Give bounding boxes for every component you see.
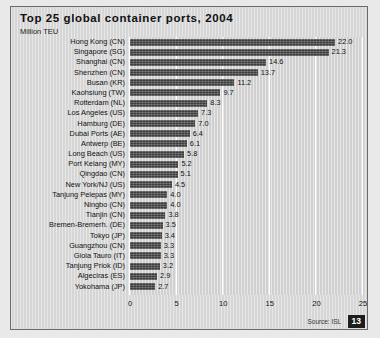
bar-category-label: Los Angeles (US) (10, 108, 125, 117)
bar (130, 39, 335, 46)
bar-category-label: Yokohama (JP) (10, 282, 125, 291)
bar (130, 242, 161, 249)
bar (130, 59, 266, 66)
bar-row: New York/NJ (US)4.5 (11, 180, 368, 190)
bar (130, 171, 178, 178)
bar-category-label: Singapore (SG) (10, 47, 125, 56)
bar-category-label: Long Beach (US) (10, 149, 125, 158)
bar-row: Gioia Tauro (IT)3.3 (11, 251, 368, 261)
bar-row: Algeciras (ES)2.9 (11, 271, 368, 281)
chart-figure: Top 25 global container ports, 2004 Mill… (10, 6, 368, 330)
bar-category-label: Dubai Ports (AE) (10, 129, 125, 138)
bar-value-label: 22.0 (338, 37, 352, 46)
bar-category-label: Tokyo (JP) (10, 231, 125, 240)
bar-row: Kaohsiung (TW)9.7 (11, 88, 368, 98)
bar-row: Shenzhen (CN)13.7 (11, 68, 368, 78)
bar-category-label: Qingdao (CN) (10, 169, 125, 178)
bar-category-label: Rotterdam (NL) (10, 98, 125, 107)
bar-row: Guangzhou (CN)3.3 (11, 241, 368, 251)
bar-row: Tianjin (CN)3.8 (11, 210, 368, 220)
bar-row: Qingdao (CN)5.1 (11, 169, 368, 179)
bar-category-label: Ningbo (CN) (10, 200, 125, 209)
bar-value-label: 7.0 (198, 119, 208, 128)
bar-row: Tanjung Pelepas (MY)4.0 (11, 190, 368, 200)
bar (130, 263, 160, 270)
bar-category-label: New York/NJ (US) (10, 180, 125, 189)
bar (130, 100, 207, 107)
bar-value-label: 13.7 (261, 68, 275, 77)
bar (130, 202, 167, 209)
bar-value-label: 4.0 (170, 190, 180, 199)
bar-row: Dubai Ports (AE)6.4 (11, 129, 368, 139)
bar-category-label: Hamburg (DE) (10, 119, 125, 128)
bar-value-label: 21.3 (332, 47, 346, 56)
bar-value-label: 11.2 (237, 78, 251, 87)
bar-value-label: 3.8 (168, 210, 178, 219)
bar-row: Yokohama (JP)2.7 (11, 282, 368, 292)
bar (130, 89, 220, 96)
bar-row: Long Beach (US)5.8 (11, 149, 368, 159)
bar (130, 212, 165, 219)
bar-row: Tokyo (JP)3.4 (11, 231, 368, 241)
bar (130, 69, 258, 76)
bar-value-label: 7.3 (201, 108, 211, 117)
bar-row: Los Angeles (US)7.3 (11, 108, 368, 118)
bar-category-label: Hong Kong (CN) (10, 37, 125, 46)
x-tick-label: 5 (174, 299, 178, 308)
bar (130, 273, 157, 280)
bar-category-label: Antwerp (BE) (10, 139, 125, 148)
source-note: Source: ISL (308, 318, 341, 325)
plot-wrapper: Hong Kong (CN)22.0Singapore (SG)21.3Shan… (11, 37, 368, 299)
page-number-badge: 13 (348, 315, 365, 328)
bar-row: Hamburg (DE)7.0 (11, 119, 368, 129)
bar-value-label: 5.8 (187, 149, 197, 158)
bar (130, 161, 178, 168)
bar (130, 79, 234, 86)
bar-value-label: 6.1 (190, 139, 200, 148)
bar (130, 110, 198, 117)
bar-row: Tanjung Priok (ID)3.2 (11, 261, 368, 271)
bar-rows: Hong Kong (CN)22.0Singapore (SG)21.3Shan… (11, 37, 368, 292)
x-tick-label: 15 (266, 299, 274, 308)
bar-value-label: 5.1 (181, 169, 191, 178)
bar-row: Hong Kong (CN)22.0 (11, 37, 368, 47)
x-tick-label: 10 (219, 299, 227, 308)
chart-subtitle: Million TEU (20, 27, 58, 36)
bar-category-label: Port Kelang (MY) (10, 159, 125, 168)
bar-value-label: 6.4 (193, 129, 203, 138)
bar-value-label: 5.2 (181, 159, 191, 168)
bar-row: Singapore (SG)21.3 (11, 47, 368, 57)
bar-row: Busan (KR)11.2 (11, 78, 368, 88)
bar-value-label: 3.3 (164, 241, 174, 250)
bar-row: Bremen-Bremerh. (DE)3.5 (11, 220, 368, 230)
bar-category-label: Tanjung Pelepas (MY) (10, 190, 125, 199)
bar-value-label: 4.0 (170, 200, 180, 209)
bar-value-label: 2.7 (158, 282, 168, 291)
bar-row: Shanghai (CN)14.6 (11, 57, 368, 67)
bar (130, 283, 155, 290)
bar-value-label: 9.7 (223, 88, 233, 97)
bar-category-label: Bremen-Bremerh. (DE) (10, 220, 125, 229)
bar-category-label: Gioia Tauro (IT) (10, 251, 125, 260)
bar (130, 252, 161, 259)
bar-value-label: 14.6 (269, 57, 283, 66)
bar (130, 49, 329, 56)
bar-row: Ningbo (CN)4.0 (11, 200, 368, 210)
bar-category-label: Busan (KR) (10, 78, 125, 87)
bar-category-label: Tianjin (CN) (10, 210, 125, 219)
bar (130, 181, 172, 188)
bar-value-label: 4.5 (175, 180, 185, 189)
bar (130, 120, 195, 127)
bar-value-label: 3.5 (166, 220, 176, 229)
bar-value-label: 3.4 (165, 231, 175, 240)
bar (130, 151, 184, 158)
bar-row: Antwerp (BE)6.1 (11, 139, 368, 149)
x-tick-label: 25 (359, 299, 367, 308)
bar-value-label: 3.3 (164, 251, 174, 260)
bar (130, 130, 190, 137)
bar-category-label: Shanghai (CN) (10, 57, 125, 66)
bar (130, 191, 167, 198)
bar (130, 140, 187, 147)
bar-category-label: Guangzhou (CN) (10, 241, 125, 250)
bar (130, 232, 162, 239)
